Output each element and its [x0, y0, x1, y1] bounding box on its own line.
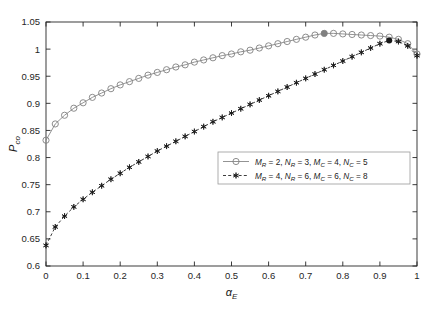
legend-layer[interactable]: MR = 2, NR = 3, MC = 4, NC = 5MR = 4, NR…	[218, 152, 410, 184]
y-tick-label: 1.05	[22, 16, 41, 27]
y-tick-label: 0.9	[27, 98, 40, 109]
y-tick-label: 1	[35, 44, 40, 55]
y-tick-label: 0.85	[22, 125, 41, 136]
figure-container: 00.10.20.30.40.50.60.70.80.910.60.650.70…	[0, 0, 433, 318]
y-tick-label: 0.65	[22, 233, 41, 244]
x-tick-label: 0.5	[225, 270, 238, 281]
data-point-highlight	[386, 37, 392, 43]
x-tick-label: 0.3	[151, 270, 164, 281]
line-chart: 00.10.20.30.40.50.60.70.80.910.60.650.70…	[0, 0, 433, 318]
x-tick-label: 0.4	[188, 270, 201, 281]
x-tick-label: 0.1	[76, 270, 89, 281]
x-tick-label: 0.7	[299, 270, 312, 281]
y-tick-label: 0.6	[27, 260, 40, 271]
x-tick-label: 0	[43, 270, 48, 281]
x-tick-label: 0.6	[262, 270, 275, 281]
x-tick-label: 0.9	[373, 270, 386, 281]
x-tick-label: 1	[414, 270, 419, 281]
x-tick-label: 0.8	[336, 270, 349, 281]
y-tick-label: 0.7	[27, 206, 40, 217]
y-tick-label: 0.95	[22, 71, 41, 82]
x-tick-label: 0.2	[114, 270, 127, 281]
data-point-highlight	[321, 30, 327, 36]
y-tick-label: 0.8	[27, 152, 40, 163]
y-tick-label: 0.75	[22, 179, 41, 190]
